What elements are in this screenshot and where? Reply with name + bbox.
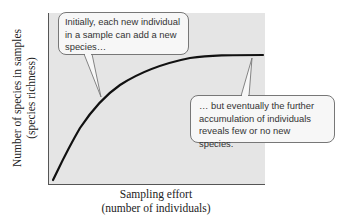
y-axis-label-line1: Number of species in samples [10,29,24,167]
callout-1-tail [84,54,101,97]
y-axis-label-line2: (species richness) [24,29,38,167]
callout-initial-text: Initially, each new individual in a samp… [65,16,180,52]
annotation-callout-initial: Initially, each new individual in a samp… [58,12,189,55]
y-axis-label: Number of species in samples (species ri… [2,18,46,178]
x-axis-label: Sampling effort (number of individuals) [48,187,264,215]
callout-plateau-text: … but eventually the further accumulatio… [199,100,314,149]
x-axis-label-line1: Sampling effort [48,187,264,201]
callout-2-tail [241,58,252,96]
annotation-callout-plateau: … but eventually the further accumulatio… [190,95,335,143]
x-axis-label-line2: (number of individuals) [48,201,264,215]
